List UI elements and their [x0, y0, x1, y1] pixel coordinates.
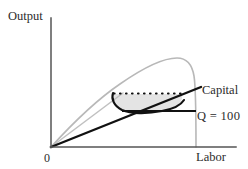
x-axis-label: Labor: [196, 151, 226, 164]
origin-label: 0: [44, 152, 50, 164]
capital-annotation-label: Capital: [202, 84, 238, 97]
isoquant-annotation-label: Q = 100: [197, 110, 240, 123]
y-axis-label: Output: [8, 10, 43, 23]
economics-production-figure: Output Labor Capital Q = 100 0: [0, 0, 248, 169]
